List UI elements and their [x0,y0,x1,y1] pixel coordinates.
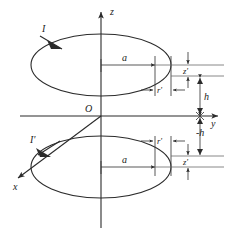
x-axis [18,116,101,178]
height-label-lower: -h [196,127,204,138]
origin-label: O [85,103,92,114]
z-prime-label-upper: z' [182,66,188,76]
radius-label-lower: a [122,154,127,165]
offset-label-lower: r' [157,136,162,146]
upper-z-prime-marker [155,52,224,88]
lower-radius-dimension [101,161,155,174]
y-axis-label: y [210,118,216,129]
height-label-upper: h [204,91,209,102]
z-prime-label-lower: z' [182,157,188,167]
x-axis-label: x [12,181,18,192]
z-axis-label: z [109,6,114,17]
radius-label-upper: a [122,52,127,63]
current-label-lower: I' [29,134,36,145]
diagram-canvas: z y x O I I' [0,0,229,234]
physics-diagram-figure: z y x O I I' [0,0,229,234]
height-dimension-upper [197,78,203,116]
lower-z-prime-marker [155,144,224,180]
offset-label-upper: r' [157,85,162,95]
current-label-upper: I [41,23,46,34]
upper-radius-dimension [101,59,155,72]
